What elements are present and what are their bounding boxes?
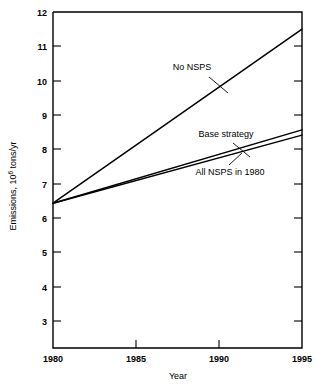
y-tick-label-9: 9: [42, 111, 47, 121]
right-axis-ticks: [294, 46, 302, 321]
y-axis-title: Emissions, 106 tons/yr: [7, 141, 19, 230]
series-label-no-nsps: No NSPS: [173, 62, 212, 72]
series-label-base-strategy: Base strategy: [198, 129, 254, 139]
series-line-base-strategy: [53, 130, 302, 203]
x-tick-label-1995: 1995: [292, 354, 312, 364]
chart-canvas: 12 11 10 9 8 7 6 5 4 3 1980 1985 1990 19…: [0, 0, 318, 385]
series-line-no-nsps: [53, 29, 302, 203]
emissions-line-chart: 12 11 10 9 8 7 6 5 4 3 1980 1985 1990 19…: [0, 0, 318, 385]
y-tick-label-10: 10: [37, 77, 47, 87]
y-tick-label-6: 6: [42, 214, 47, 224]
x-tick-label-1980: 1980: [43, 354, 63, 364]
y-tick-label-12: 12: [37, 8, 47, 18]
series-label-all-nsps-1980: All NSPS in 1980: [195, 167, 264, 177]
x-tick-label-1985: 1985: [126, 354, 146, 364]
x-tick-label-1990: 1990: [209, 354, 229, 364]
y-axis-title-main: Emissions, 10: [8, 175, 18, 231]
y-tick-label-5: 5: [42, 248, 47, 258]
y-tick-label-4: 4: [42, 283, 47, 293]
y-axis-ticks: [53, 46, 61, 321]
y-tick-label-7: 7: [42, 180, 47, 190]
x-axis-title: Year: [169, 371, 187, 381]
leader-line-no-nsps: [209, 77, 228, 93]
y-tick-label-11: 11: [37, 42, 47, 52]
series-line-all-nsps-1980: [53, 135, 302, 203]
y-tick-label-8: 8: [42, 145, 47, 155]
x-axis-ticks: [136, 340, 219, 348]
y-axis-title-suffix: tons/yr: [8, 141, 18, 171]
y-tick-label-3: 3: [42, 317, 47, 327]
